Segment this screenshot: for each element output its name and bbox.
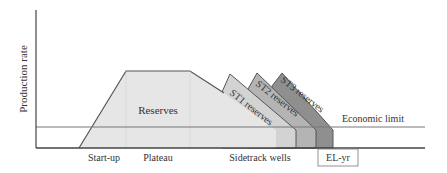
phase-startup-label: Start-up xyxy=(88,152,120,163)
el-yr-label: EL-yr xyxy=(326,152,351,163)
production-profile-diagram: Production rate Reserves ST1 reserves ST… xyxy=(0,0,447,173)
y-axis-label: Production rate xyxy=(17,45,29,113)
phase-sidetrack-label: Sidetrack wells xyxy=(229,152,290,163)
phase-plateau-label: Plateau xyxy=(143,152,172,163)
reserves-label: Reserves xyxy=(138,104,178,116)
economic-limit-label: Economic limit xyxy=(342,113,404,124)
